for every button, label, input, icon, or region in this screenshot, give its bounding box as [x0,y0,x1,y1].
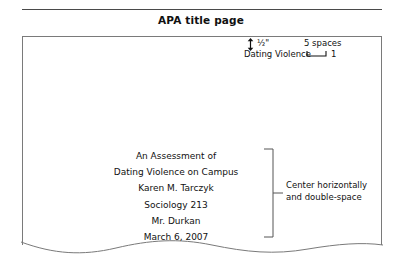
title-line: March 6, 2007 [96,229,256,245]
figure-header: APA title page [0,0,402,36]
running-head-annotation: ½" 5 spaces Dating Violence 1 [244,38,394,64]
top-margin-label: ½" [257,38,269,48]
header-rule [22,9,382,10]
spaces-label: 5 spaces [304,38,341,48]
span-bracket-icon [306,50,330,59]
figure-title: APA title page [0,14,402,26]
title-line: Sociology 213 [96,197,256,213]
title-line: An Assessment of [96,148,256,164]
title-line: Karen M. Tarczyk [96,180,256,196]
centering-note-line-2: and double-space [286,192,394,204]
page-number: 1 [331,49,336,59]
centering-note: Center horizontally and double-space [286,180,394,203]
title-line: Mr. Durkan [96,213,256,229]
running-head-text: Dating Violence [244,49,311,59]
title-line: Dating Violence on Campus [96,164,256,180]
centering-note-line-1: Center horizontally [286,180,394,192]
right-brace-icon [262,148,284,238]
title-block: An Assessment of Dating Violence on Camp… [96,148,256,245]
